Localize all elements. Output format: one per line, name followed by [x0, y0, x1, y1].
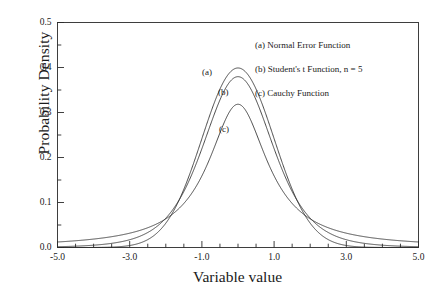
figure-chart: Probability Density Variable value 0.00.…	[0, 0, 434, 299]
y-tick-label: 0.1	[12, 197, 52, 207]
x-tick-label: 3.0	[326, 252, 366, 262]
curve-tag-c: (c)	[219, 124, 229, 134]
x-tick-label: 1.0	[254, 252, 294, 262]
y-tick-label: 0.0	[12, 242, 52, 252]
legend-entry-a: (a) Normal Error Function	[255, 40, 350, 50]
y-tick-label: 0.2	[12, 152, 52, 162]
axes-frame	[58, 23, 419, 248]
legend-entry-b: (b) Student's t Function, n = 5	[255, 64, 362, 74]
x-tick-label: -1.0	[182, 252, 222, 262]
y-tick-label: 0.5	[12, 17, 52, 27]
curve-series-2	[58, 77, 419, 247]
y-tick-label: 0.3	[12, 107, 52, 117]
curve-tag-b: (b)	[218, 87, 229, 97]
x-axis-title: Variable value	[57, 268, 418, 286]
x-tick-label: 5.0	[399, 252, 434, 262]
y-tick-label: 0.4	[12, 62, 52, 72]
curve-tag-a: (a)	[202, 67, 212, 77]
x-tick-label: -5.0	[38, 252, 78, 262]
x-tick-label: -3.0	[110, 252, 150, 262]
curve-series-3	[58, 104, 419, 242]
legend-entry-c: (c) Cauchy Function	[255, 88, 329, 98]
curve-series-1	[58, 68, 419, 248]
